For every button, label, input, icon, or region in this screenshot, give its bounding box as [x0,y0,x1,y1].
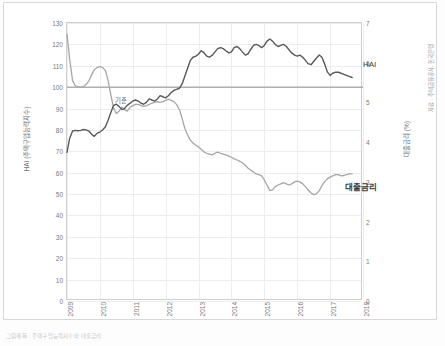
series-label-hai: HAI [363,60,376,69]
figure-caption: 그림제목 : 주택구입능력지수와 대출금리 [6,332,101,340]
y-tick-label-left: 10 [56,276,63,283]
y-tick-label-left: 60 [56,169,63,176]
series-label-rate: 대출금리 [345,180,377,192]
x-tick-label: 2010 [99,302,106,316]
y-tick-label-left: 50 [56,191,63,198]
source-note: 자료 : 주택금융공사, 한국은행 [425,2,437,112]
plot-area: 0102030405060708090100110120130 01234567… [66,22,362,300]
y-tick-label-left: 20 [56,255,63,262]
y-tick-label-right: 7 [366,20,370,27]
series-lines [67,23,363,301]
y-tick-label-left: 40 [56,212,63,219]
y-tick-label-left: 110 [53,62,63,69]
y-axis-left-label: HAI (주택구입능력지수) [20,0,34,278]
y-tick-label-left: 80 [56,126,63,133]
y-tick-label-right: 1 [366,258,370,265]
chart-figure: 자료 : 주택금융공사, 한국은행 HAI (주택구입능력지수) 대출금리 (%… [0,0,445,346]
x-tick-label: 2017 [330,302,337,316]
y-tick-label-right: 5 [366,99,370,106]
y-tick-label-left: 30 [56,233,63,240]
y-tick-label-left: 70 [56,148,63,155]
x-tick-label: 2018 [363,302,370,316]
x-tick-label: 2016 [297,302,304,316]
x-tick-label: 2014 [231,302,238,316]
y-tick-label-right: 2 [366,218,370,225]
x-tick-label: 2009 [67,302,74,316]
baseline-label: 기준 [115,95,127,105]
y-tick-label-left: 90 [56,105,63,112]
y-tick-label-left: 120 [52,41,63,48]
y-tick-label-right: 4 [366,139,370,146]
y-tick-label-left: 130 [52,20,63,27]
gridline-horizontal [67,301,361,302]
x-tick-label: 2015 [264,302,271,316]
x-tick-label: 2012 [165,302,172,316]
hai-line-path [67,39,352,152]
y-tick-label-left: 0 [59,298,63,305]
x-tick-label: 2011 [132,302,139,316]
x-tick-label: 2013 [198,302,205,316]
y-axis-right-label: 대출금리 (%) [400,0,414,278]
y-tick-label-left: 100 [52,84,63,91]
